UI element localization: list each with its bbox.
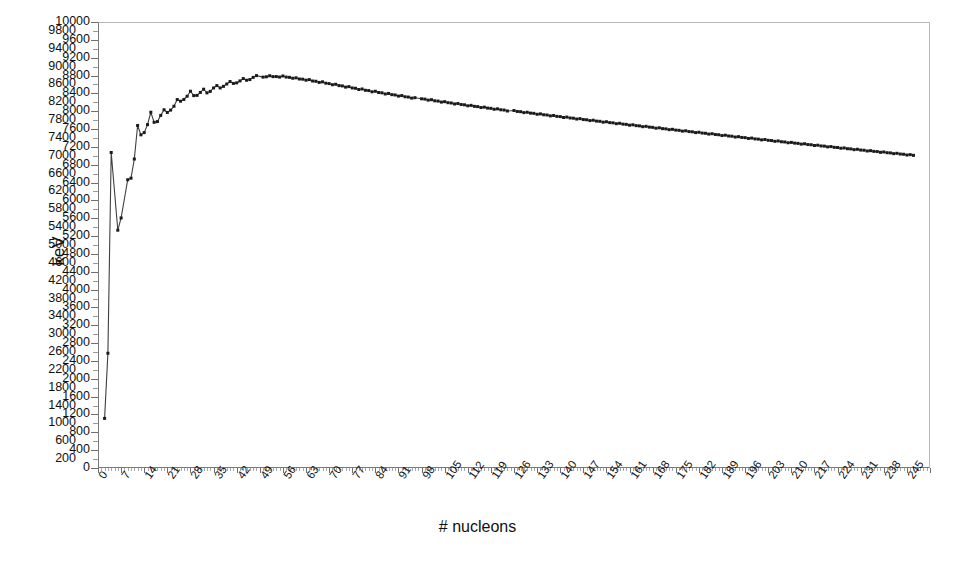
- x-tick-mark: [808, 468, 809, 471]
- x-tick-mark: [768, 468, 769, 473]
- x-tick-mark: [745, 468, 746, 473]
- data-point: [740, 136, 743, 139]
- x-tick-mark: [801, 468, 802, 471]
- data-point: [684, 129, 687, 132]
- data-point: [278, 76, 281, 79]
- y-tick-label: 3000: [30, 327, 76, 339]
- data-point: [681, 130, 684, 133]
- x-tick-mark: [537, 468, 538, 473]
- data-point: [400, 94, 403, 97]
- x-tick-mark: [418, 468, 419, 471]
- x-tick-mark: [200, 468, 201, 471]
- y-tick-mark: [91, 40, 98, 41]
- data-point: [618, 122, 621, 125]
- y-tick-mark: [91, 414, 98, 415]
- data-point: [139, 133, 142, 136]
- x-tick-mark: [613, 468, 614, 471]
- y-tick-mark: [91, 200, 98, 201]
- data-point: [793, 142, 796, 145]
- data-point: [813, 144, 816, 147]
- data-point: [697, 131, 700, 134]
- x-tick-mark: [735, 468, 736, 471]
- data-point: [638, 124, 641, 127]
- x-tick-mark: [659, 468, 660, 471]
- y-tick-label: 7600: [44, 122, 90, 134]
- y-tick-label: 7200: [44, 140, 90, 152]
- x-tick-mark: [557, 468, 558, 471]
- x-tick-mark: [464, 468, 465, 471]
- x-tick-mark: [422, 468, 423, 473]
- x-tick-mark: [742, 468, 743, 471]
- x-tick-mark: [359, 468, 360, 471]
- data-point: [608, 121, 611, 124]
- y-tick-mark: [91, 93, 98, 94]
- data-point: [262, 76, 265, 79]
- x-tick-mark: [441, 468, 442, 471]
- x-tick-mark: [256, 468, 257, 471]
- x-tick-mark: [458, 468, 459, 471]
- x-tick-mark: [306, 468, 307, 473]
- y-tick-label: 7000: [30, 149, 76, 161]
- data-point: [149, 111, 152, 114]
- x-tick-mark: [293, 468, 294, 471]
- x-tick-mark: [748, 468, 749, 471]
- y-tick-mark: [91, 468, 98, 469]
- data-point: [889, 151, 892, 154]
- x-tick-mark: [332, 468, 333, 471]
- x-tick-mark: [841, 468, 842, 471]
- data-point: [354, 87, 357, 90]
- data-point: [404, 95, 407, 98]
- y-tick-label: 1000: [30, 416, 76, 428]
- data-point: [116, 229, 119, 232]
- x-tick-mark: [917, 468, 918, 471]
- data-point: [476, 105, 479, 108]
- data-point: [648, 126, 651, 129]
- y-tick-mark: [91, 361, 98, 362]
- data-point: [156, 120, 159, 123]
- data-point: [730, 135, 733, 138]
- data-point: [892, 152, 895, 155]
- data-point: [133, 158, 136, 161]
- data-point: [212, 86, 215, 89]
- x-tick-mark: [583, 468, 584, 473]
- data-point: [678, 129, 681, 132]
- x-tick-mark: [785, 468, 786, 471]
- x-tick-mark: [194, 468, 195, 471]
- data-point: [390, 93, 393, 96]
- y-tick-mark: [91, 22, 98, 23]
- x-tick-mark: [616, 468, 617, 471]
- data-point: [526, 111, 529, 114]
- data-point: [159, 114, 162, 117]
- data-point: [265, 75, 268, 78]
- x-tick-mark: [488, 468, 489, 471]
- data-point: [146, 123, 149, 126]
- x-tick-mark: [385, 468, 386, 471]
- data-point: [671, 128, 674, 131]
- x-tick-mark: [527, 468, 528, 471]
- x-tick-mark: [352, 468, 353, 473]
- x-tick-mark: [111, 468, 112, 471]
- x-tick-mark: [187, 468, 188, 471]
- x-tick-mark: [220, 468, 221, 471]
- x-tick-mark: [755, 468, 756, 471]
- data-point: [519, 110, 522, 113]
- data-point: [186, 95, 189, 98]
- data-point: [440, 101, 443, 104]
- x-tick-mark: [811, 468, 812, 471]
- data-series-layer: [98, 22, 930, 468]
- data-point: [483, 106, 486, 109]
- x-tick-mark: [620, 468, 621, 471]
- data-point: [229, 80, 232, 83]
- x-tick-mark: [521, 468, 522, 471]
- x-tick-mark: [758, 468, 759, 471]
- data-point: [433, 99, 436, 102]
- y-tick-label: 2200: [30, 363, 76, 375]
- x-tick-mark: [567, 468, 568, 471]
- x-tick-mark: [623, 468, 624, 471]
- data-point: [215, 84, 218, 87]
- y-tick-label: 1200: [44, 407, 90, 419]
- data-point: [658, 126, 661, 129]
- data-point: [163, 108, 166, 111]
- y-tick-mark: [91, 76, 98, 77]
- data-point: [466, 104, 469, 107]
